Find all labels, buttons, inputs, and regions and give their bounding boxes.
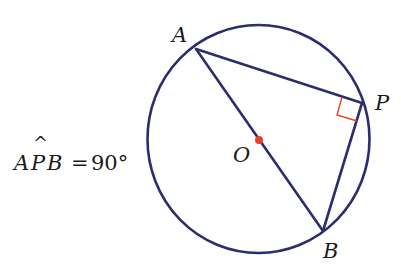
label-p: P xyxy=(374,91,390,115)
label-a: A xyxy=(170,23,187,47)
label-o: O xyxy=(233,143,250,167)
angle-equation: A ^ P B = 90° xyxy=(12,133,128,175)
circle-theorem-diagram: A P B O A ^ P B = 90° xyxy=(0,0,401,269)
eq-value: 90° xyxy=(91,151,128,175)
center-point-o xyxy=(255,136,263,144)
eq-point-p: P xyxy=(30,151,46,175)
diagram-svg: A P B O A ^ P B = 90° xyxy=(0,0,401,269)
eq-equals: = xyxy=(71,151,89,175)
label-b: B xyxy=(322,239,338,263)
eq-point-b: B xyxy=(46,151,62,175)
eq-point-a: A xyxy=(12,151,29,175)
